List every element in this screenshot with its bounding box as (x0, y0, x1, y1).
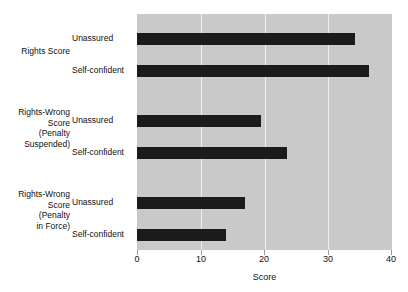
group-label-line: in Force) (2, 221, 70, 232)
bars-layer (137, 14, 392, 250)
group-label-line: Rights Score (2, 46, 70, 57)
series-label-rights-score-self-confident: Self-confident (72, 65, 133, 76)
tick-label-10: 10 (188, 254, 214, 265)
group-label-line: (Penalty (2, 128, 70, 139)
bar-rights-score-self-confident (137, 65, 369, 77)
group-label-line: Rights-Wrong (2, 189, 70, 200)
group-label-line: Score (2, 118, 70, 129)
series-label-suspended-self-confident: Self-confident (72, 147, 133, 158)
group-label-line: Rights-Wrong (2, 107, 70, 118)
bar-rights-wrong-suspended-self-confident (137, 147, 287, 159)
bar-rights-wrong-in-force-self-confident (137, 229, 226, 241)
tick-label-20: 20 (251, 254, 277, 265)
series-label-in-force-unassured: Unassured (72, 197, 133, 208)
group-label-line: Suspended) (2, 139, 70, 150)
tick-label-0: 0 (124, 254, 150, 265)
series-label-rights-score-unassured: Unassured (72, 33, 133, 44)
series-label-suspended-unassured: Unassured (72, 115, 133, 126)
group-label-rights-wrong-suspended: Rights-Wrong Score (Penalty Suspended) (2, 107, 70, 149)
group-label-rights-wrong-in-force: Rights-Wrong Score (Penalty in Force) (2, 189, 70, 231)
tick-label-30: 30 (315, 254, 341, 265)
group-label-line: Score (2, 200, 70, 211)
bar-rights-score-unassured (137, 33, 355, 45)
tick-label-40: 40 (378, 254, 404, 265)
group-label-line: (Penalty (2, 210, 70, 221)
x-axis-title: Score (137, 272, 392, 282)
bar-rights-wrong-in-force-unassured (137, 197, 245, 209)
plot-area (137, 14, 392, 250)
bar-chart: 0 10 20 30 40 Score Rights Score Rights-… (0, 0, 408, 292)
group-label-rights-score: Rights Score (2, 46, 70, 57)
bar-rights-wrong-suspended-unassured (137, 115, 261, 127)
series-label-in-force-self-confident: Self-confident (72, 229, 133, 240)
